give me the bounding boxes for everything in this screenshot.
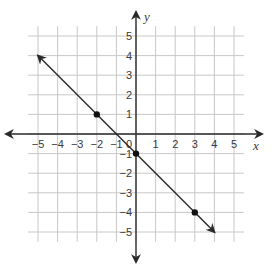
y-tick-label: −2 bbox=[119, 167, 132, 179]
x-tick-label: 4 bbox=[211, 138, 217, 150]
x-tick-label: 1 bbox=[153, 138, 159, 150]
x-tick-label: −5 bbox=[32, 138, 45, 150]
y-axis-label: y bbox=[142, 9, 150, 24]
y-tick-label: 4 bbox=[126, 50, 132, 62]
y-tick-label: −3 bbox=[119, 187, 132, 199]
y-tick-label: −4 bbox=[119, 206, 132, 218]
y-tick-label: 1 bbox=[126, 108, 132, 120]
y-tick-label: 2 bbox=[126, 89, 132, 101]
x-tick-label: 2 bbox=[172, 138, 178, 150]
axes bbox=[6, 12, 262, 262]
x-axis-label: x bbox=[252, 138, 259, 153]
data-point bbox=[94, 111, 100, 117]
x-tick-label: −3 bbox=[71, 138, 84, 150]
x-tick-label: −2 bbox=[91, 138, 104, 150]
y-tick-label: −5 bbox=[119, 226, 132, 238]
data-point bbox=[133, 150, 139, 156]
x-tick-label: 3 bbox=[192, 138, 198, 150]
data-point bbox=[192, 209, 198, 215]
y-tick-label: 5 bbox=[126, 30, 132, 42]
x-tick-label: 5 bbox=[231, 138, 237, 150]
x-tick-label: −4 bbox=[51, 138, 64, 150]
y-tick-label: 3 bbox=[126, 69, 132, 81]
coordinate-plane: −5−4−3−2−11234554321−1−2−3−4−50 x y bbox=[0, 0, 272, 271]
